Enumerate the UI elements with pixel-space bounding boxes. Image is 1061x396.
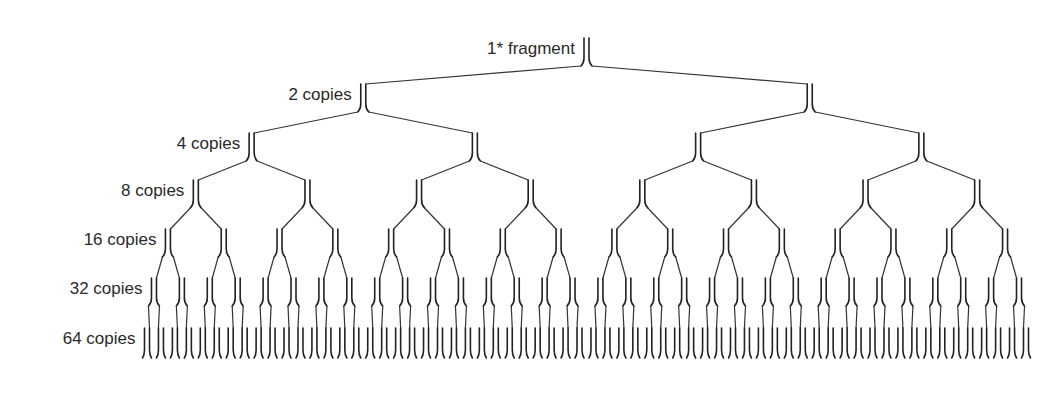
dna-strand-icon	[455, 278, 458, 306]
branch-line	[790, 306, 791, 328]
dna-strand-icon	[666, 328, 668, 358]
branch-line	[800, 306, 801, 328]
dna-strand-icon	[226, 328, 228, 358]
dna-strand-icon	[484, 328, 486, 358]
branch-line	[288, 306, 289, 328]
dna-strand-icon	[408, 328, 410, 358]
dna-strand-icon	[268, 328, 270, 358]
branch-line	[511, 306, 512, 328]
dna-strand-icon	[198, 180, 201, 208]
dna-strand-icon	[539, 278, 542, 306]
branch-line	[986, 306, 987, 328]
dna-strand-icon	[162, 229, 165, 257]
dna-strand-icon	[1022, 278, 1025, 306]
branch-line	[715, 257, 721, 278]
branch-line	[679, 306, 680, 328]
dna-strand-icon	[198, 328, 200, 358]
dna-strand-icon	[1001, 328, 1003, 358]
dna-strand-icon	[428, 278, 431, 306]
dna-strand-icon	[917, 328, 919, 358]
dna-strand-icon	[874, 278, 877, 306]
dna-strand-icon	[204, 278, 207, 306]
dna-strand-icon	[422, 180, 425, 208]
branch-line	[536, 208, 556, 229]
dna-strand-icon	[275, 328, 277, 358]
dna-strand-icon	[721, 229, 724, 257]
dna-strand-icon	[902, 278, 905, 306]
dna-strand-icon	[609, 229, 612, 257]
branch-line	[257, 161, 305, 180]
dna-strand-icon	[958, 278, 961, 306]
dna-strand-icon	[436, 328, 438, 358]
dna-strand-icon	[387, 328, 389, 358]
dna-strand-icon	[784, 328, 786, 358]
dna-strand-icon	[1029, 328, 1031, 358]
dna-strand-icon	[491, 328, 493, 358]
dna-strand-icon	[972, 180, 975, 208]
dna-strand-icon	[966, 278, 969, 306]
branch-line	[704, 161, 752, 180]
dna-strand-icon	[790, 278, 793, 306]
branch-line	[659, 257, 665, 278]
dna-strand-icon	[762, 278, 765, 306]
dna-strand-icon	[176, 278, 179, 306]
branch-line	[521, 306, 522, 328]
branch-line	[846, 306, 847, 328]
branch-line	[394, 208, 414, 229]
dna-strand-icon	[882, 328, 884, 358]
branch-line	[1014, 306, 1015, 328]
dna-strand-icon	[798, 328, 800, 358]
branch-line	[232, 306, 233, 328]
dna-strand-icon	[910, 328, 912, 358]
branch-line	[617, 208, 637, 229]
dna-strand-icon	[170, 328, 172, 358]
dna-strand-icon	[673, 328, 675, 358]
dna-strand-icon	[219, 328, 221, 358]
dna-strand-icon	[553, 229, 556, 257]
dna-strand-icon	[324, 278, 327, 306]
branch-line	[689, 306, 690, 328]
branch-line	[214, 306, 215, 328]
dna-strand-icon	[170, 229, 173, 257]
dna-strand-icon	[310, 328, 312, 358]
dna-strand-icon	[945, 328, 947, 358]
dna-strand-icon	[924, 328, 926, 358]
branch-line	[651, 306, 652, 328]
dna-strand-icon	[317, 328, 319, 358]
branch-line	[605, 306, 606, 328]
dna-strand-icon	[805, 328, 807, 358]
dna-strand-icon	[184, 278, 187, 306]
dna-strand-icon	[589, 328, 591, 358]
dna-strand-icon	[330, 229, 333, 257]
dna-strand-icon	[952, 229, 955, 257]
branch-line	[428, 306, 429, 328]
branch-line	[170, 208, 190, 229]
dna-strand-icon	[770, 278, 773, 306]
dna-strand-icon	[408, 278, 411, 306]
branch-line	[452, 257, 458, 278]
dna-strand-icon	[449, 328, 451, 358]
branch-line	[493, 306, 494, 328]
dna-strand-icon	[748, 180, 751, 208]
dna-strand-icon	[882, 278, 885, 306]
branch-line	[410, 306, 411, 328]
branch-line	[422, 161, 470, 180]
dna-strand-icon	[352, 278, 355, 306]
dna-strand-icon	[316, 278, 319, 306]
branch-line	[912, 306, 913, 328]
dna-strand-icon	[436, 278, 439, 306]
dna-strand-icon	[575, 278, 578, 306]
branch-line	[701, 112, 805, 133]
branch-line	[595, 306, 596, 328]
level-label-64-copies: 64 copies	[63, 330, 136, 347]
branch-line	[344, 306, 345, 328]
branch-line	[577, 306, 578, 328]
dna-strand-icon	[818, 278, 821, 306]
dna-strand-icon	[246, 133, 249, 161]
branch-line	[676, 257, 682, 278]
dna-strand-icon	[525, 180, 528, 208]
dna-strand-icon	[924, 133, 927, 161]
dna-strand-icon	[595, 278, 598, 306]
dna-strand-icon	[372, 278, 375, 306]
dna-strand-icon	[156, 278, 159, 306]
